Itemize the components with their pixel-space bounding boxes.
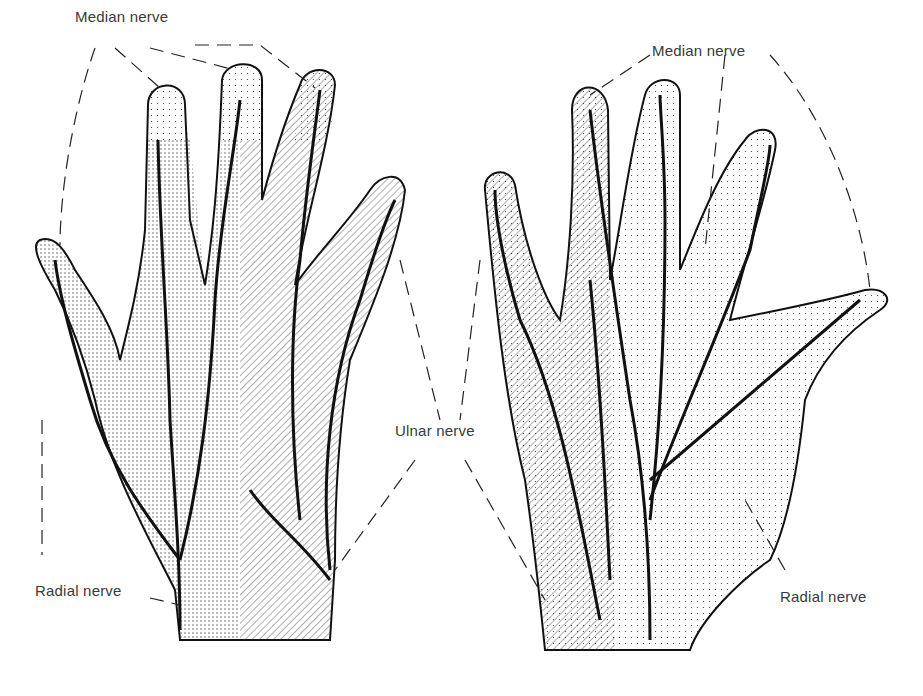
- label-median-nerve-palmar: Median nerve: [652, 42, 745, 59]
- palmar-hand: [485, 80, 887, 650]
- dorsal-hand: [36, 64, 405, 640]
- label-radial-nerve-palmar: Radial nerve: [780, 588, 867, 605]
- label-ulnar-nerve: Ulnar nerve: [395, 422, 475, 439]
- label-radial-nerve-dorsal: Radial nerve: [35, 582, 122, 599]
- label-median-nerve-dorsal: Median nerve: [75, 8, 168, 25]
